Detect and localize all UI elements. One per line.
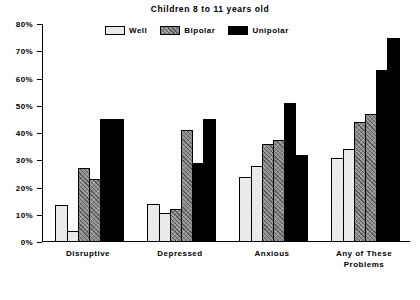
y-tick-mark: 70% xyxy=(37,51,42,52)
bar-chart: Children 8 to 11 years old Well Bipolar … xyxy=(0,0,420,300)
y-tick-mark: 20% xyxy=(37,188,42,189)
bar xyxy=(387,38,399,242)
bar xyxy=(295,155,307,242)
category-label: Anxious xyxy=(226,248,318,259)
bar-group xyxy=(239,24,312,242)
chart-title: Children 8 to 11 years old xyxy=(0,4,420,14)
bar xyxy=(203,119,215,242)
y-tick-mark: 10% xyxy=(37,215,42,216)
y-tick-label: 80% xyxy=(16,20,33,29)
y-tick-mark: 80% xyxy=(37,24,42,25)
category-label: Disruptive xyxy=(42,248,134,259)
y-tick-label: 60% xyxy=(16,74,33,83)
y-tick-mark: 30% xyxy=(37,160,42,161)
y-tick-label: 20% xyxy=(16,183,33,192)
category-label-line: Disruptive xyxy=(42,248,134,259)
category-label: Any of TheseProblems xyxy=(318,248,410,270)
category-label-line: Depressed xyxy=(134,248,226,259)
plot-area: 0%10%20%30%40%50%60%70%80% xyxy=(42,24,410,242)
category-label-line: Anxious xyxy=(226,248,318,259)
y-tick-mark: 50% xyxy=(37,106,42,107)
bar-group xyxy=(331,24,404,242)
y-tick-label: 0% xyxy=(21,238,33,247)
y-tick-mark: 60% xyxy=(37,79,42,80)
category-label-line: Any of These xyxy=(318,248,410,259)
y-tick-mark: 40% xyxy=(37,133,42,134)
category-label-line: Problems xyxy=(318,259,410,270)
y-tick-label: 70% xyxy=(16,47,33,56)
y-tick-label: 50% xyxy=(16,101,33,110)
y-tick-label: 10% xyxy=(16,210,33,219)
y-tick-label: 40% xyxy=(16,129,33,138)
category-label: Depressed xyxy=(134,248,226,259)
bar-group xyxy=(147,24,220,242)
y-axis xyxy=(42,24,43,242)
bar xyxy=(111,119,123,242)
y-tick-label: 30% xyxy=(16,156,33,165)
bar-group xyxy=(55,24,128,242)
y-tick-mark: 0% xyxy=(37,242,42,243)
